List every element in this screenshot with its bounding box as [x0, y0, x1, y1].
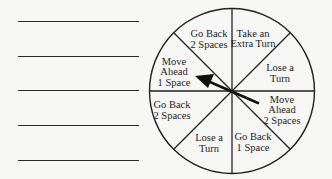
section-label: Ahead: [268, 104, 296, 115]
section-label: Extra Turn: [230, 38, 276, 49]
spinner-arrow-icon: [195, 74, 258, 103]
section-bottom-left: Lose a Turn: [195, 132, 223, 154]
section-label: Go Back: [190, 28, 228, 39]
section-label: 2 Spaces: [153, 110, 190, 121]
section-label: 2 Spaces: [190, 39, 227, 50]
section-label: Lose a: [195, 132, 223, 143]
section-left-lower: Go Back 2 Spaces: [153, 99, 191, 121]
section-bottom-right: Go Back 1 Space: [234, 131, 272, 153]
section-right-upper: Lose a Turn: [266, 62, 294, 84]
section-label: Lose a: [266, 62, 294, 73]
section-label: 1 Space: [237, 142, 270, 153]
section-label: Go Back: [234, 131, 272, 142]
spinner: Go Back 2 Spaces Take an Extra Turn Lose…: [0, 0, 332, 179]
section-label: Turn: [199, 143, 220, 154]
section-right-lower: Move Ahead 2 Spaces: [263, 94, 300, 126]
section-label: Ahead: [160, 66, 188, 77]
section-top-right: Take an Extra Turn: [230, 28, 276, 49]
section-top-left: Go Back 2 Spaces: [190, 28, 228, 50]
section-label: 1 Space: [158, 77, 191, 88]
section-label: 2 Spaces: [263, 115, 300, 126]
section-left-upper: Move Ahead 1 Space: [158, 56, 191, 88]
section-label: Turn: [270, 73, 291, 84]
section-label: Go Back: [153, 99, 191, 110]
